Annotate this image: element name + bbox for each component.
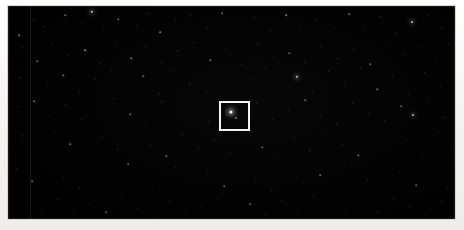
star-point xyxy=(303,182,304,183)
star-point xyxy=(33,19,34,20)
star-point xyxy=(425,214,426,215)
star-point xyxy=(265,214,266,215)
star-point xyxy=(47,165,48,166)
star-point xyxy=(309,150,310,151)
star-point xyxy=(79,187,80,188)
star-point xyxy=(277,156,278,157)
star-point xyxy=(448,43,449,44)
star-point xyxy=(288,109,289,110)
star-point xyxy=(361,202,362,203)
star-point xyxy=(437,132,438,133)
star-point xyxy=(161,62,162,63)
star-point xyxy=(97,108,98,109)
star-point xyxy=(380,16,381,17)
star-point xyxy=(287,169,288,170)
star-point xyxy=(399,171,400,172)
star-point xyxy=(221,12,223,14)
star-point xyxy=(257,44,258,45)
star-point xyxy=(415,184,417,186)
star-point xyxy=(64,14,66,16)
star-point xyxy=(173,70,174,71)
star-point xyxy=(313,196,314,197)
star-point xyxy=(288,52,290,54)
star-point xyxy=(47,85,48,86)
star-point xyxy=(217,198,218,199)
star-point xyxy=(353,49,354,50)
star-point xyxy=(133,130,134,131)
star-point xyxy=(348,13,350,15)
aperture-selection-box[interactable] xyxy=(219,101,250,131)
star-point xyxy=(304,99,306,101)
star-point xyxy=(281,89,282,90)
star-point xyxy=(94,78,95,79)
star-point xyxy=(325,131,326,132)
star-point xyxy=(65,104,66,105)
star-point xyxy=(319,174,321,176)
star-point xyxy=(285,14,287,16)
star-point xyxy=(400,105,402,107)
star-point xyxy=(428,100,429,101)
star-point xyxy=(208,121,209,122)
star-point xyxy=(245,133,246,134)
star-point xyxy=(328,71,329,72)
star-point xyxy=(130,57,132,59)
star-point xyxy=(373,135,374,136)
star-point xyxy=(43,26,44,27)
star-point xyxy=(193,106,194,107)
star-point xyxy=(159,31,161,33)
star-point xyxy=(193,42,194,43)
star-point xyxy=(446,188,447,189)
star-point xyxy=(136,25,137,26)
star-point xyxy=(223,185,225,187)
star-point xyxy=(261,146,263,148)
star-point xyxy=(78,90,79,91)
star-point xyxy=(129,113,131,115)
star-point xyxy=(19,77,20,78)
star-point xyxy=(345,213,346,214)
star-point xyxy=(206,27,207,28)
star-point xyxy=(165,155,167,157)
star-point xyxy=(105,211,107,213)
star-point xyxy=(21,135,22,136)
star-point xyxy=(250,79,251,80)
star-point xyxy=(18,34,20,36)
screenshot-root xyxy=(0,0,464,230)
star-point xyxy=(367,179,368,180)
star-point xyxy=(435,60,436,61)
star-point xyxy=(191,181,192,182)
star-point xyxy=(53,132,54,133)
star-point xyxy=(344,84,345,85)
star-point xyxy=(111,183,112,184)
star-point xyxy=(143,176,144,177)
star-point xyxy=(364,25,365,26)
star-point xyxy=(63,177,64,178)
star-point xyxy=(377,211,378,212)
star-point xyxy=(205,91,206,92)
star-point xyxy=(402,54,403,55)
star-point xyxy=(383,191,384,192)
star-point xyxy=(25,202,26,203)
star-point xyxy=(148,13,149,14)
star-point xyxy=(113,98,114,99)
star-point xyxy=(405,140,406,141)
star-point xyxy=(384,120,385,121)
star-point xyxy=(37,147,38,148)
star-point xyxy=(117,149,118,150)
star-point xyxy=(68,55,69,56)
star-point xyxy=(81,119,82,120)
star-point xyxy=(444,117,445,118)
star-point xyxy=(424,72,425,73)
star-point xyxy=(385,42,386,43)
star-point xyxy=(265,68,266,69)
star-point xyxy=(201,205,202,206)
star-point xyxy=(51,43,52,44)
star-point xyxy=(91,11,93,13)
star-field-image[interactable] xyxy=(8,6,455,219)
star-point xyxy=(336,123,337,124)
star-point xyxy=(159,189,160,190)
star-point xyxy=(177,117,178,118)
star-point xyxy=(213,139,214,140)
star-point xyxy=(233,210,234,211)
star-point xyxy=(207,173,208,174)
star-point xyxy=(181,134,182,135)
